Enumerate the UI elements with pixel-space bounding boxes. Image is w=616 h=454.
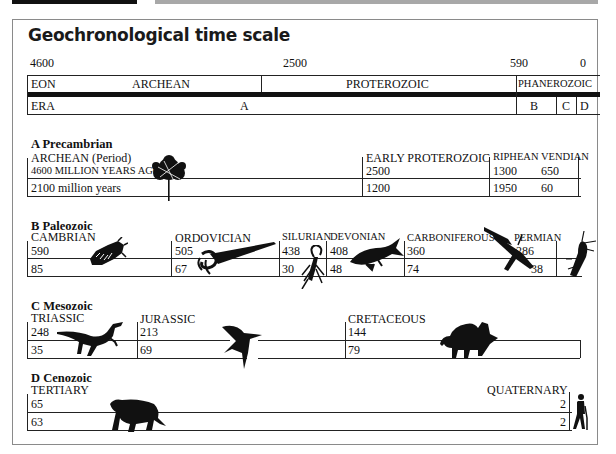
beetle-icon	[566, 229, 598, 281]
period-name: ARCHEAN (Period)	[31, 151, 131, 166]
section-heading: A Precambrian	[31, 137, 112, 152]
period-duration: 2100 million years	[31, 181, 121, 196]
era-d: D	[580, 99, 589, 114]
period-name: CAMBRIAN	[31, 230, 96, 245]
period-name: SILURIAN	[282, 231, 331, 242]
period-start: 590	[31, 244, 49, 259]
lobe-fin-fish-icon	[348, 236, 404, 272]
sub-start: 2500	[366, 164, 390, 179]
period-start: 360	[407, 244, 425, 259]
sub-start: 650	[541, 164, 559, 179]
triceratops-icon	[440, 320, 500, 358]
tick-2500: 2500	[283, 56, 307, 71]
sub-name: VENDIAN	[541, 151, 589, 162]
eon-label: EON	[31, 77, 56, 92]
page-title: Geochronological time scale	[28, 25, 290, 45]
period-duration: 30	[282, 262, 294, 277]
tick-590: 590	[510, 56, 528, 71]
period-duration: 63	[31, 415, 43, 430]
human-icon	[571, 394, 589, 430]
sub-duration: 1950	[493, 181, 517, 196]
dragonfly-icon	[482, 225, 538, 279]
period-start: 65	[31, 397, 43, 412]
period-duration: 48	[330, 262, 342, 277]
period-start: 505	[175, 244, 193, 259]
period-start: 408	[330, 244, 348, 259]
period-duration: 2	[560, 415, 566, 430]
period-duration: 35	[31, 343, 43, 358]
era-c: C	[562, 99, 570, 114]
stromatolite-tree-icon	[148, 155, 190, 201]
sabertooth-cat-icon	[110, 398, 168, 432]
period-start: 144	[348, 325, 366, 340]
period-start: 248	[31, 325, 49, 340]
nautiloid-icon	[196, 240, 278, 276]
era-a: A	[240, 99, 249, 114]
period-duration: 79	[348, 343, 360, 358]
period-duration: 69	[140, 343, 152, 358]
pterosaur-icon	[222, 323, 264, 369]
era-label: ERA	[31, 99, 55, 114]
period-name: TERTIARY	[31, 383, 89, 398]
period-start: 2	[560, 397, 566, 412]
tick-4600: 4600	[30, 56, 54, 71]
top-bar-dark	[12, 0, 137, 4]
sub-duration: 1200	[366, 181, 390, 196]
scorpion-icon	[300, 245, 328, 289]
period-start: 4600 MILLION YEARS AGO	[31, 165, 160, 176]
sub-name: RIPHEAN	[493, 151, 539, 162]
era-b: B	[530, 99, 538, 114]
dinosaur-icon	[57, 320, 127, 358]
period-duration: 67	[175, 262, 187, 277]
sub-start: 1300	[493, 164, 517, 179]
sub-duration: 60	[541, 181, 553, 196]
period-name: QUATERNARY	[487, 383, 568, 398]
eon-archean: ARCHEAN	[132, 77, 190, 92]
period-start: 438	[282, 244, 300, 259]
period-duration: 85	[31, 262, 43, 277]
eon-phanerozoic: PHANEROZOIC	[518, 78, 592, 89]
period-start: 213	[140, 325, 158, 340]
eon-proterozoic: PROTEROZOIC	[346, 77, 429, 92]
period-duration: 74	[407, 262, 419, 277]
tick-0: 0	[580, 56, 586, 71]
top-bar-gray	[155, 0, 598, 4]
trilobite-icon	[88, 237, 128, 269]
